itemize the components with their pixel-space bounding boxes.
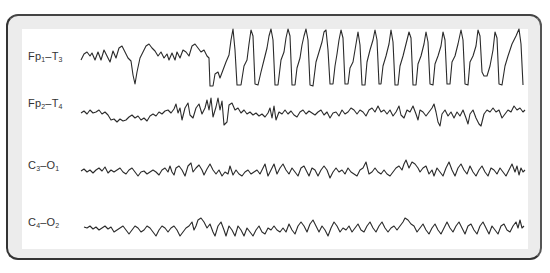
eeg-traces xyxy=(0,0,550,273)
trace-fp2-t4 xyxy=(81,98,525,126)
trace-c3-o1 xyxy=(81,160,525,178)
trace-fp1-t3 xyxy=(81,29,523,86)
trace-c4-o2 xyxy=(84,218,524,236)
